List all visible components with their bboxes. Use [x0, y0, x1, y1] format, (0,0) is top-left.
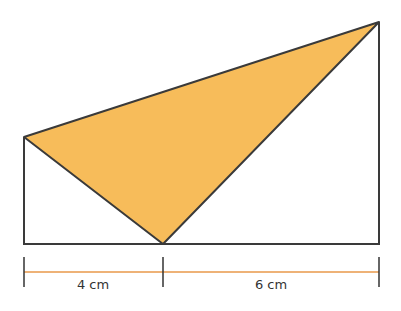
geometry-diagram: 4 cm 6 cm [0, 0, 401, 311]
measurement-label-right: 6 cm [255, 277, 287, 292]
shaded-triangle [24, 22, 379, 244]
measurement-label-left: 4 cm [77, 277, 109, 292]
